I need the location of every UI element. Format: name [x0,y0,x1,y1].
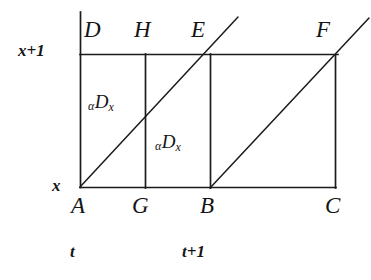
vertex-label-H: H [134,18,151,41]
region-label-alpha-Dx-left: αDx [88,92,114,111]
vertex-label-E: E [191,18,205,41]
x-subscript-right: x [176,140,181,154]
diagram-svg [0,0,371,280]
vertex-label-B: B [200,194,214,217]
x-subscript-left: x [109,100,114,114]
vertex-label-D: D [84,18,101,41]
figure-canvas: x+1 x t t+1 D H E F A G B C αDx αDx [0,0,371,280]
x-axis-tick-t: t [70,243,75,260]
diagonal-cohort-line-2 [210,18,369,188]
D-glyph-left: D [95,91,109,112]
x-axis-tick-t-plus-1: t+1 [182,243,205,260]
alpha-glyph-right: α [155,139,162,153]
y-axis-tick-x: x [52,177,61,194]
vertex-label-G: G [132,194,149,217]
region-label-alpha-Dx-right: αDx [155,132,181,151]
alpha-glyph-left: α [88,99,95,113]
vertex-label-F: F [316,18,330,41]
vertex-label-C: C [325,194,340,217]
D-glyph-right: D [162,131,176,152]
vertex-label-A: A [71,194,85,217]
y-axis-tick-x-plus-1: x+1 [18,42,45,59]
